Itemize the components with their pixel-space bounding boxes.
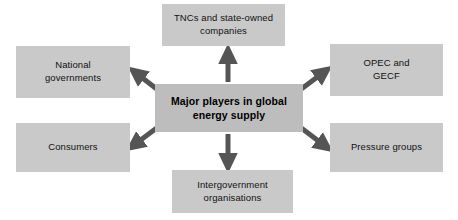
node-pressure-groups-label: Pressure groups [346, 141, 427, 154]
node-intergov-label: Intergovernmentorganisations [192, 179, 273, 205]
node-center-major-players: Major players in globalenergy supply [155, 84, 303, 132]
energy-players-diagram: TNCs and state-ownedcompanies Nationalgo… [0, 0, 458, 220]
node-center-label: Major players in globalenergy supply [166, 94, 292, 122]
arrow-center-to-opec [300, 72, 324, 90]
node-consumers: Consumers [16, 123, 130, 172]
node-consumers-label: Consumers [43, 141, 102, 154]
node-opec-and-gecf: OPEC andGECF [330, 44, 443, 96]
node-national-label: Nationalgovernments [40, 59, 106, 85]
node-opec-label: OPEC andGECF [358, 57, 414, 83]
node-pressure-groups: Pressure groups [330, 123, 443, 172]
arrow-center-to-pressure [300, 127, 325, 146]
node-tncs-label: TNCs and state-ownedcompanies [169, 12, 278, 38]
node-intergovernment-organisations: Intergovernmentorganisations [172, 170, 293, 213]
node-tncs-and-state-owned-companies: TNCs and state-ownedcompanies [162, 4, 285, 46]
node-national-governments: Nationalgovernments [16, 46, 130, 98]
